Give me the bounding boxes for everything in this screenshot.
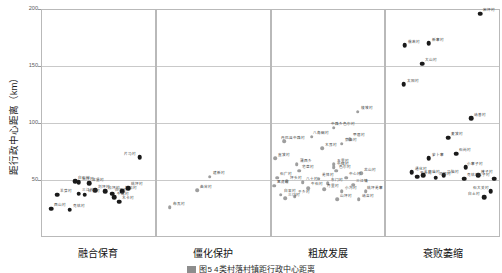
data-point: [323, 187, 327, 191]
data-point-label: 直波村: [278, 151, 290, 156]
data-point: [462, 177, 467, 182]
data-point-label: 店子村: [478, 172, 490, 177]
data-point-label: 萝卜寨: [432, 151, 444, 156]
data-point-label: 龙山村: [364, 166, 376, 171]
data-point: [357, 198, 361, 202]
data-point-label: 片马村: [124, 150, 136, 155]
data-point-label: 宅垄村: [302, 164, 314, 169]
y-tick-mark-50: [38, 180, 41, 181]
data-point-label: 木耳村: [325, 141, 337, 146]
data-point: [335, 198, 339, 202]
data-point-label: 俄若村: [408, 38, 420, 43]
data-point: [427, 41, 432, 46]
data-point-label: 八十村: [306, 175, 318, 180]
data-point-label: 桃坪羌寨: [367, 184, 383, 189]
x-category-1: 融合保育: [41, 245, 156, 260]
data-point: [415, 174, 420, 179]
chart-figure: 距行政中心距离（km） 片马村长坪村甘堡村白石村刘坪村松坪村日别村三江村白河村独…: [0, 0, 502, 273]
data-point: [77, 191, 82, 196]
data-point: [49, 206, 54, 211]
data-point: [117, 199, 122, 204]
data-point-label: 白石村: [78, 174, 90, 179]
data-point: [297, 169, 301, 173]
data-point: [409, 170, 414, 175]
data-point: [55, 193, 60, 198]
data-point: [279, 193, 283, 197]
data-point-label: 麦波村: [451, 131, 463, 136]
y-tick-label-150: 150: [2, 62, 38, 68]
data-point: [195, 188, 199, 192]
data-point-label: 纳吉村: [362, 192, 374, 197]
y-tick-mark-150: [38, 66, 41, 67]
data-point-label: 克枯村: [73, 203, 85, 208]
data-point-label: 布瓦村: [173, 200, 185, 205]
data-point: [401, 82, 406, 87]
data-point-label: 大山村: [425, 57, 437, 62]
data-point-label: 三江镇: [356, 178, 368, 183]
data-point: [301, 180, 305, 184]
y-tick-label-50: 50: [2, 176, 38, 182]
data-point: [272, 184, 276, 188]
data-point-label: 牛石村: [311, 181, 323, 186]
data-point: [454, 151, 459, 156]
data-point-label: 中路乡色尔村: [331, 121, 355, 126]
data-point: [284, 196, 288, 200]
data-point-label: 蒲西乡: [300, 157, 312, 162]
data-point: [446, 136, 451, 141]
data-point: [478, 11, 483, 16]
data-point: [492, 177, 497, 182]
data-point-label: 莫洛村: [345, 137, 357, 142]
data-point: [433, 175, 438, 180]
x-category-3: 粗放发展: [271, 245, 386, 260]
data-point: [356, 110, 360, 114]
data-point-label: 平头村: [420, 170, 432, 175]
data-point: [273, 157, 277, 161]
data-point-label: 八角碉村: [313, 130, 329, 135]
data-point-label: 东门村: [331, 176, 343, 181]
x-category-2: 僵化保护: [156, 245, 271, 260]
data-point-label: 小沟村: [345, 184, 357, 189]
data-point-label: 三江村: [82, 187, 94, 192]
y-tick-mark-200: [38, 9, 41, 10]
data-point: [87, 181, 92, 186]
data-point: [482, 195, 487, 200]
data-point: [402, 43, 407, 48]
data-point-label: 坪头村: [290, 174, 302, 179]
data-point-label: 黑虎村: [277, 179, 289, 184]
data-point-label: 太阳村: [407, 77, 419, 82]
x-category-4: 衰败萎缩: [385, 245, 500, 260]
data-point: [332, 126, 336, 130]
data-point-label: 月里村: [327, 182, 339, 187]
data-point: [73, 179, 78, 184]
caption-text: 图5 4类村落村镇距行政中心距离: [199, 265, 314, 273]
y-tick-label-200: 200: [2, 5, 38, 11]
plot-area: 片马村长坪村甘堡村白石村刘坪村松坪村日别村三江村白河村独松村桃坪村牛尾村羊茸村木…: [41, 9, 500, 237]
data-point: [295, 162, 299, 166]
data-point: [427, 156, 432, 161]
data-point-label: 新寨村: [432, 36, 444, 41]
data-point: [463, 165, 468, 170]
data-point: [320, 146, 324, 150]
data-point: [469, 116, 474, 121]
data-point: [82, 193, 87, 198]
data-point: [282, 139, 286, 143]
data-point-label: 纳普村: [474, 111, 486, 116]
data-point-label: 山坪村: [340, 192, 352, 197]
data-point-label: 三门村: [288, 191, 300, 196]
data-point-label: 宋坪村: [483, 7, 495, 12]
data-point-label: 桃坪村: [131, 181, 143, 186]
data-point-label: 梭坡村: [361, 105, 373, 110]
data-point: [208, 175, 212, 179]
data-point-label: 丹巴县中路村: [281, 134, 305, 139]
data-point-label: 曲谷村: [200, 183, 212, 188]
caption-marker: [187, 266, 196, 273]
y-tick-label-100: 100: [2, 119, 38, 125]
data-point-label: 小寨子村: [467, 160, 483, 165]
data-point: [67, 207, 72, 212]
data-point: [489, 189, 494, 194]
data-point-label: 木卡村: [122, 195, 134, 200]
data-point: [168, 206, 172, 210]
data-point-label: 羊茸村: [60, 188, 72, 193]
data-point-label: 西山村: [54, 202, 66, 207]
data-point: [420, 61, 425, 66]
